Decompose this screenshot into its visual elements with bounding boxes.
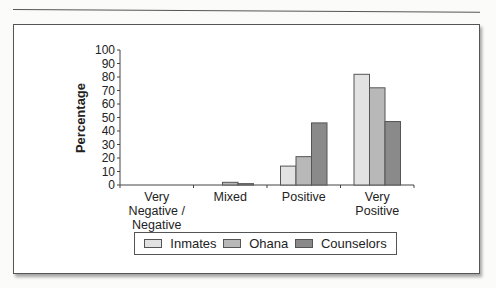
legend-swatch-ohana xyxy=(223,239,241,248)
y-axis-label: Percentage xyxy=(73,83,88,153)
legend-label-ohana: Ohana xyxy=(249,236,288,251)
bar-counselors xyxy=(238,184,254,185)
y-tick-label: 90 xyxy=(102,57,116,71)
y-tick-label: 0 xyxy=(108,178,115,192)
x-tick-label: Negative / xyxy=(129,204,186,218)
bar-ohana xyxy=(296,157,312,185)
legend-label-inmates: Inmates xyxy=(170,236,216,251)
y-tick-label: 10 xyxy=(102,165,116,179)
legend-swatch-inmates xyxy=(144,239,162,248)
x-tick-label: Very xyxy=(144,190,170,204)
bar-counselors xyxy=(312,123,328,185)
legend-swatch-counselors xyxy=(295,239,313,248)
x-tick-label: Positive xyxy=(282,190,326,204)
y-tick-label: 40 xyxy=(102,124,116,138)
bar-inmates xyxy=(281,166,297,185)
legend-label-counselors: Counselors xyxy=(321,236,387,251)
y-tick-label: 70 xyxy=(102,84,116,98)
y-tick-label: 20 xyxy=(102,151,116,165)
legend-item-counselors: Counselors xyxy=(295,236,387,251)
x-tick-label: Negative xyxy=(132,218,181,232)
x-tick-label: Positive xyxy=(355,204,399,218)
y-tick-label: 30 xyxy=(102,138,116,152)
bar-ohana xyxy=(223,182,239,185)
y-tick-label: 80 xyxy=(102,70,116,84)
y-tick-label: 100 xyxy=(95,43,115,57)
bar-counselors xyxy=(385,122,401,185)
bar-inmates xyxy=(354,74,370,185)
legend-item-inmates: Inmates xyxy=(144,236,216,251)
x-tick-label: Mixed xyxy=(214,190,247,204)
legend-item-ohana: Ohana xyxy=(223,236,288,251)
x-tick-label: Very xyxy=(365,190,391,204)
chart-legend: Inmates Ohana Counselors xyxy=(134,232,397,255)
y-tick-label: 50 xyxy=(102,111,116,125)
bar-ohana xyxy=(370,88,386,185)
y-tick-label: 60 xyxy=(102,97,116,111)
